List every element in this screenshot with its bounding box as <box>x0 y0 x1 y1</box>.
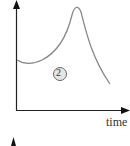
x-axis-label: time <box>106 115 127 130</box>
marker-label: 2 <box>56 67 61 78</box>
x-axis-arrow-icon <box>121 107 130 114</box>
y-axis-arrow-icon <box>13 0 20 9</box>
next-diagram-arrow-icon <box>11 137 16 146</box>
